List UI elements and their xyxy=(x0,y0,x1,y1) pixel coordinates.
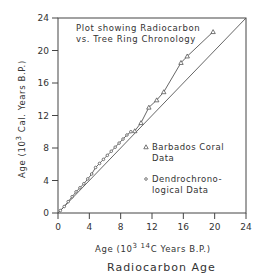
circle-marker xyxy=(79,187,82,190)
y-axis-label: Age (103 Cal. Years B.P.) xyxy=(15,60,27,178)
x-tick-label: 8 xyxy=(118,222,124,232)
circle-marker xyxy=(83,182,86,185)
circle-marker xyxy=(71,195,74,198)
y-tick-label: 0 xyxy=(43,208,49,218)
circle-marker xyxy=(98,162,101,165)
chart-annotation-line-2: vs. Tree Ring Chronology xyxy=(76,34,196,44)
circle-marker xyxy=(126,134,129,137)
x-tick-label: 0 xyxy=(55,222,61,232)
x-axis: 04812162024 xyxy=(55,213,252,232)
triangle-marker xyxy=(139,121,143,125)
y-tick-label: 12 xyxy=(38,111,49,121)
chart-canvas: 04812162024 04812162024 Plot showing Rad… xyxy=(0,0,267,277)
y-tick-label: 20 xyxy=(38,46,50,56)
circle-marker xyxy=(145,178,148,181)
x-tick-label: 4 xyxy=(86,222,92,232)
circle-marker xyxy=(63,205,66,208)
circle-marker xyxy=(122,138,125,141)
series-barbados-coral-data xyxy=(133,30,216,133)
y-tick-label: 8 xyxy=(43,143,49,153)
x-tick-label: 12 xyxy=(146,222,157,232)
y-tick-label: 16 xyxy=(38,78,50,88)
x-tick-label: 20 xyxy=(209,222,221,232)
circle-marker xyxy=(102,158,105,161)
x-tick-label: 24 xyxy=(240,222,252,232)
chart-subtitle: Radiocarbon Age xyxy=(107,261,216,274)
y-tick-label: 4 xyxy=(43,176,49,186)
x-tick-label: 16 xyxy=(178,222,190,232)
y-tick-label: 24 xyxy=(38,13,50,23)
legend-label: logical Data xyxy=(152,185,209,195)
triangle-marker xyxy=(144,145,148,149)
circle-marker xyxy=(94,166,97,169)
y-axis: 04812162024 xyxy=(38,13,58,218)
triangle-marker xyxy=(162,90,166,94)
chart-annotation-line-1: Plot showing Radiocarbon xyxy=(76,23,200,33)
circle-marker xyxy=(67,200,70,203)
circle-marker xyxy=(110,150,113,153)
legend: Barbados CoralDataDendrochrono-logical D… xyxy=(144,142,224,195)
circle-marker xyxy=(118,142,121,145)
legend-item: Barbados CoralData xyxy=(144,142,224,163)
circle-marker xyxy=(106,154,109,157)
circle-marker xyxy=(90,173,93,176)
x-axis-label: Age (10314C Years B.P.) xyxy=(95,242,211,254)
circle-marker xyxy=(114,146,117,149)
legend-label: Dendrochrono- xyxy=(152,174,222,184)
circle-marker xyxy=(130,130,133,133)
legend-label: Barbados Coral xyxy=(152,142,224,152)
legend-item: Dendrochrono-logical Data xyxy=(145,174,222,195)
legend-label: Data xyxy=(152,153,174,163)
circle-marker xyxy=(86,178,89,181)
series-line xyxy=(135,32,213,131)
series-dendrochronological-data xyxy=(59,130,132,211)
circle-marker xyxy=(59,209,62,212)
triangle-marker xyxy=(211,30,215,34)
circle-marker xyxy=(75,191,78,194)
radiocarbon-chart: 04812162024 04812162024 Plot showing Rad… xyxy=(0,0,267,277)
